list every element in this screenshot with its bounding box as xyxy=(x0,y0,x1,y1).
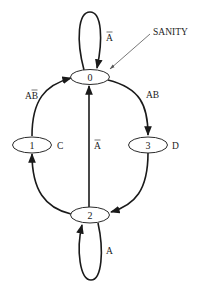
node-3: 3 xyxy=(129,137,168,153)
edge-0-to-3 xyxy=(108,80,148,135)
edge-1-to-0 xyxy=(32,78,71,136)
svg-text:A: A xyxy=(94,141,101,151)
edge-label-1-0: AB xyxy=(25,90,38,101)
edge-0-to-0 xyxy=(79,12,100,70)
svg-text:AB: AB xyxy=(146,90,159,100)
edge-label-0-0: A xyxy=(106,32,113,43)
node-1-label: 1 xyxy=(30,140,35,151)
node-3-label: 3 xyxy=(146,140,151,151)
edge-3-to-2 xyxy=(111,153,148,212)
edge-label-2-0: A xyxy=(94,140,101,151)
node-0: 0 xyxy=(71,70,110,85)
sanity-pointer-arrow xyxy=(110,34,150,69)
edge-2-to-1 xyxy=(32,154,71,214)
state-diagram: 0 1 2 3 C D A AB AB A A SANITY xyxy=(0,0,202,293)
node-2-label: 2 xyxy=(88,210,93,221)
edge-label-2-2: A xyxy=(106,246,113,256)
node-3-output-label: D xyxy=(172,141,179,151)
edge-label-0-3: AB xyxy=(146,90,159,100)
edge-2-to-2 xyxy=(79,223,101,280)
svg-text:A: A xyxy=(106,246,113,256)
node-2: 2 xyxy=(71,207,110,223)
svg-text:A: A xyxy=(106,33,113,43)
sanity-annotation-label: SANITY xyxy=(153,27,188,37)
svg-text:AB: AB xyxy=(25,91,38,101)
node-1-output-label: C xyxy=(57,141,63,151)
node-0-label: 0 xyxy=(88,72,93,83)
node-1: 1 xyxy=(13,137,52,153)
